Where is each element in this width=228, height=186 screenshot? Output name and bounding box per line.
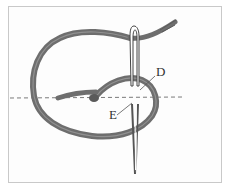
label-e: E [109,108,117,121]
label-d: D [156,65,165,78]
label-e-leader [117,103,132,115]
stitch-hole [89,94,99,102]
stitch-illustration [0,0,228,186]
